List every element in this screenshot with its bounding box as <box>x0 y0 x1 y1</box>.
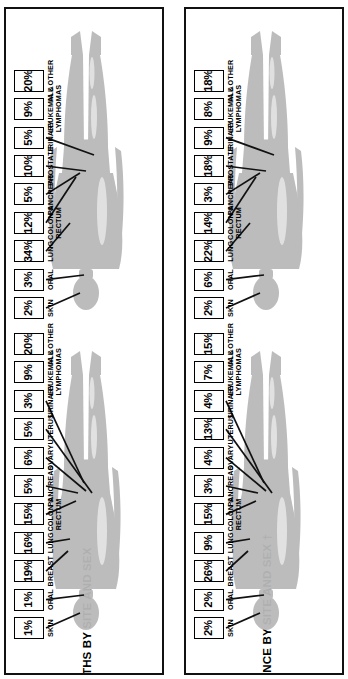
percentage-value: 14% <box>203 212 214 234</box>
percentage-value: 16% <box>23 532 34 554</box>
percentage-value: 3% <box>203 478 214 494</box>
percentage-box: 3% <box>14 269 44 291</box>
percentage-value: 15% <box>203 503 214 525</box>
percentage-value: 5% <box>23 130 34 146</box>
percentage-box: 10% <box>14 155 44 177</box>
percentage-box: 3% <box>194 475 224 497</box>
percentage-box: 18% <box>194 155 224 177</box>
percentage-value: 34% <box>23 240 34 262</box>
percentage-value: 13% <box>203 418 214 440</box>
percentage-box: 6% <box>194 269 224 291</box>
percentage-value: 5% <box>23 186 34 202</box>
percentage-value: 4% <box>203 450 214 466</box>
percentage-value: 18% <box>203 155 214 177</box>
percentage-box: 3% <box>14 390 44 412</box>
percentage-value: 6% <box>203 272 214 288</box>
percentage-value: 18% <box>203 70 214 92</box>
percentage-box: 2% <box>194 297 224 319</box>
callout-female-incidence-9: 7%LEUKEMIA & LYMPHOMAS <box>194 361 243 383</box>
percentage-box: 16% <box>14 532 44 554</box>
percentage-value: 5% <box>23 421 34 437</box>
group-male-deaths: 2%SKIN3%ORAL34%LUNG12%COLON & RECTUM5%PA… <box>6 7 164 323</box>
percentage-value: 9% <box>203 130 214 146</box>
percentage-value: 2% <box>203 620 214 636</box>
percentage-box: 18% <box>194 70 224 92</box>
percentage-box: 5% <box>14 475 44 497</box>
percentage-box: 9% <box>194 532 224 554</box>
percentage-value: 8% <box>203 101 214 117</box>
percentage-box: 20% <box>14 70 44 92</box>
percentage-box: 6% <box>14 447 44 469</box>
percentage-box: 15% <box>14 503 44 525</box>
percentage-box: 2% <box>194 617 224 639</box>
percentage-value: 9% <box>23 101 34 117</box>
callouts-female-incidence: 2%SKIN2%ORAL26%BREAST9%LUNG15%COLON & RE… <box>186 325 344 643</box>
percentage-box: 5% <box>14 127 44 149</box>
percentage-value: 2% <box>23 300 34 316</box>
percentage-value: 15% <box>203 333 214 355</box>
percentage-box: 2% <box>194 589 224 611</box>
percentage-box: 9% <box>14 98 44 120</box>
percentage-box: 14% <box>194 212 224 234</box>
percentage-value: 19% <box>23 560 34 582</box>
percentage-box: 3% <box>194 183 224 205</box>
percentage-box: 15% <box>194 333 224 355</box>
percentage-value: 6% <box>23 450 34 466</box>
rotated-page-stage: CANCER DEATHS BY SITE AND SEX <box>0 0 348 679</box>
percentage-value: 3% <box>23 272 34 288</box>
percentage-value: 3% <box>203 186 214 202</box>
percentage-value: 4% <box>203 393 214 409</box>
percentage-value: 5% <box>23 478 34 494</box>
percentage-value: 12% <box>23 212 34 234</box>
percentage-box: 2% <box>14 297 44 319</box>
percentage-box: 19% <box>14 560 44 582</box>
percentage-box: 8% <box>194 98 224 120</box>
callouts-female-deaths: 1%SKIN1%ORAL19%BREAST16%LUNG15%COLON & R… <box>6 325 164 643</box>
group-male-incidence: 2%SKIN6%ORAL22%LUNG14%COLON & RECTUM3%PA… <box>186 7 344 323</box>
percentage-value: 3% <box>23 393 34 409</box>
percentage-box: 5% <box>14 418 44 440</box>
percentage-box: 9% <box>14 361 44 383</box>
percentage-value: 1% <box>23 620 34 636</box>
group-female-incidence: 2%SKIN2%ORAL26%BREAST9%LUNG15%COLON & RE… <box>186 325 344 643</box>
percentage-value: 10% <box>23 155 34 177</box>
percentage-box: 7% <box>194 361 224 383</box>
percentage-value: 2% <box>203 592 214 608</box>
callout-female-incidence-4: 15%COLON & RECTUM <box>194 503 243 525</box>
panel-cancer-deaths: CANCER DEATHS BY SITE AND SEX <box>4 7 164 675</box>
callouts-male-incidence: 2%SKIN6%ORAL22%LUNG14%COLON & RECTUM3%PA… <box>186 7 344 323</box>
panel-cancer-incidence: CANCER INCIDENCE BY SITE AND SEX † <box>184 7 344 675</box>
percentage-box: 9% <box>194 127 224 149</box>
percentage-box: 5% <box>14 183 44 205</box>
percentage-box: 34% <box>14 240 44 262</box>
callout-male-deaths-8: 20%ALL OTHER <box>14 70 55 92</box>
callout-male-deaths-3: 12%COLON & RECTUM <box>14 212 63 234</box>
callouts-male-deaths: 2%SKIN3%ORAL34%LUNG12%COLON & RECTUM5%PA… <box>6 7 164 323</box>
percentage-box: 13% <box>194 418 224 440</box>
percentage-box: 20% <box>14 333 44 355</box>
percentage-box: 1% <box>14 589 44 611</box>
percentage-value: 20% <box>23 70 34 92</box>
percentage-value: 15% <box>23 503 34 525</box>
percentage-box: 4% <box>194 447 224 469</box>
percentage-value: 20% <box>23 333 34 355</box>
percentage-value: 9% <box>23 364 34 380</box>
callout-female-incidence-10: 15%ALL OTHER <box>194 333 235 355</box>
percentage-value: 26% <box>203 560 214 582</box>
percentage-value: 9% <box>203 535 214 551</box>
percentage-box: 22% <box>194 240 224 262</box>
percentage-box: 1% <box>14 617 44 639</box>
percentage-box: 4% <box>194 390 224 412</box>
site-label: ALL OTHER <box>227 58 235 104</box>
callout-female-deaths-10: 20%ALL OTHER <box>14 333 55 355</box>
callout-male-incidence-8: 18%ALL OTHER <box>194 70 235 92</box>
percentage-value: 22% <box>203 240 214 262</box>
percentage-value: 7% <box>203 364 214 380</box>
percentage-box: 26% <box>194 560 224 582</box>
site-label: ALL OTHER <box>47 58 55 104</box>
group-female-deaths: 1%SKIN1%ORAL19%BREAST16%LUNG15%COLON & R… <box>6 325 164 643</box>
callout-male-incidence-3: 14%COLON & RECTUM <box>194 212 243 234</box>
percentage-value: 2% <box>203 300 214 316</box>
percentage-box: 12% <box>14 212 44 234</box>
callout-female-deaths-4: 15%COLON & RECTUM <box>14 503 63 525</box>
